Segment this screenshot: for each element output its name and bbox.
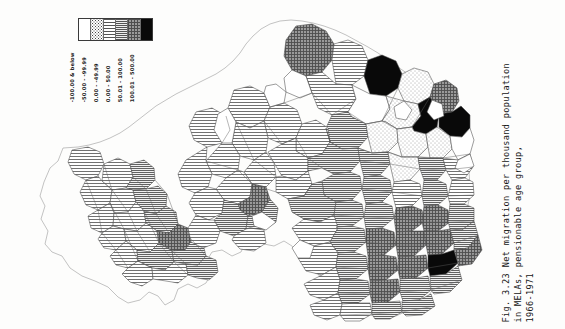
legend — [78, 18, 153, 41]
legend-label-3: 0.00 - -49.99 — [94, 63, 99, 102]
legend-label-2: -50.00 - -99.99 — [82, 57, 87, 102]
caption-line-2: in MELAs, pensionable age group, — [514, 146, 523, 323]
legend-swatch-3 — [104, 19, 116, 40]
figure-page: -100.00 & below -50.00 - -99.99 0.00 - -… — [0, 0, 565, 329]
legend-label-4: 0.00 - 50.00 — [106, 65, 111, 102]
legend-label-1: -100.00 & below — [70, 52, 75, 102]
caption-line-3: 1966-1971 — [526, 273, 535, 323]
legend-swatch-6 — [141, 19, 152, 40]
legend-swatch-1 — [79, 19, 91, 40]
figure-caption: Fig. 3.23 Net migration per thousand pop… — [497, 0, 565, 329]
legend-label-6: 100.01 - 500.00 — [130, 54, 135, 102]
legend-label-group: -100.00 & below -50.00 - -99.99 0.00 - -… — [74, 44, 156, 102]
legend-swatch-4 — [116, 19, 128, 40]
legend-swatch-5 — [128, 19, 140, 40]
legend-swatch-row — [78, 18, 153, 41]
legend-swatch-2 — [91, 19, 103, 40]
melas-south-east — [292, 215, 482, 321]
legend-label-5: 50.01 - 100.00 — [118, 58, 123, 102]
caption-line-1: Fig. 3.23 Net migration per thousand pop… — [502, 63, 511, 323]
